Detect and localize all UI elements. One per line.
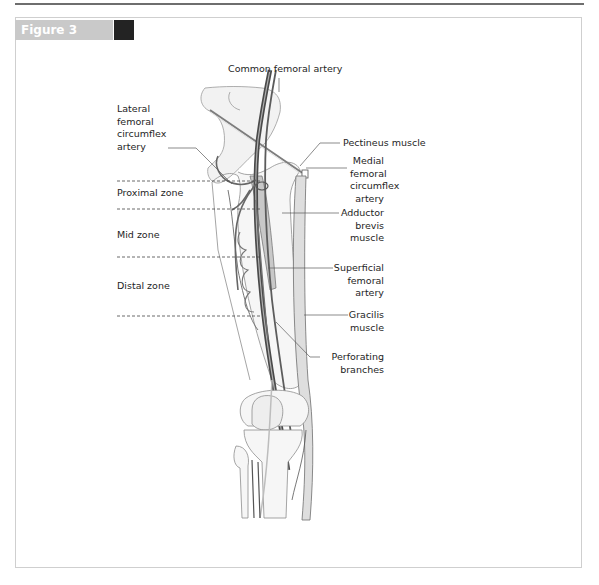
label-proximal-zone: Proximal zone <box>117 187 183 198</box>
label-medial-femoral-circumflex-artery: Medial femoral circumflex artery <box>350 155 384 205</box>
thigh-anatomy-illustration <box>0 0 599 585</box>
label-gracilis-muscle: Gracilis muscle <box>338 309 384 334</box>
label-adductor-brevis-muscle: Adductor brevis muscle <box>338 207 384 245</box>
label-perforating-branches: Perforating branches <box>322 351 384 376</box>
label-distal-zone: Distal zone <box>117 280 170 291</box>
label-superficial-femoral-artery: Superficial femoral artery <box>332 262 384 300</box>
label-pectineus-muscle: Pectineus muscle <box>343 137 426 150</box>
label-mid-zone: Mid zone <box>117 229 160 240</box>
label-lateral-femoral-circumflex-artery: Lateral femoral circumflex artery <box>117 103 166 153</box>
label-common-femoral-artery: Common femoral artery <box>228 63 342 76</box>
gracilis-muscle <box>293 176 312 520</box>
knee-joint <box>240 390 308 430</box>
